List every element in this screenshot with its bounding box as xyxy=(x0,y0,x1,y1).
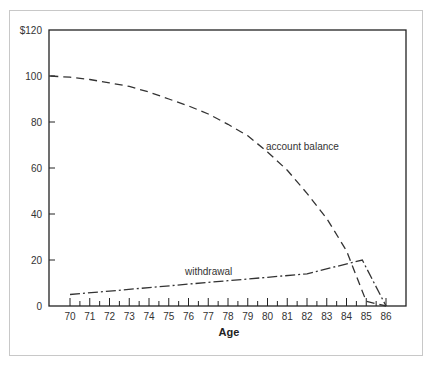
y-tick-label: 60 xyxy=(31,163,43,174)
withdrawal-label: withdrawal xyxy=(184,266,232,277)
x-tick-label: 83 xyxy=(321,311,333,322)
x-tick-label: 73 xyxy=(124,311,136,322)
x-tick-label: 82 xyxy=(301,311,313,322)
x-tick-label: 76 xyxy=(183,311,195,322)
y-axis: 020406080100$120 xyxy=(20,25,55,312)
y-tick-label: 0 xyxy=(36,301,42,312)
x-tick-label: 72 xyxy=(104,311,116,322)
x-tick-label: 77 xyxy=(203,311,215,322)
y-tick-label: 40 xyxy=(31,209,43,220)
x-tick-label: 85 xyxy=(361,311,373,322)
y-tick-label: 80 xyxy=(31,117,43,128)
x-tick-label: 81 xyxy=(282,311,294,322)
x-tick-label: 84 xyxy=(341,311,353,322)
x-tick-label: 75 xyxy=(163,311,175,322)
x-tick-label: 80 xyxy=(262,311,274,322)
x-axis: 7071727374757677787980818283848586 xyxy=(64,298,392,322)
x-tick-label: 86 xyxy=(380,311,392,322)
y-tick-label: $120 xyxy=(20,25,43,36)
plot-area xyxy=(49,30,406,306)
y-tick-label: 100 xyxy=(25,71,42,82)
account-balance-label: account balance xyxy=(266,141,339,152)
line-chart: 020406080100$120 70717273747576777879808… xyxy=(0,0,434,368)
x-axis-title: Age xyxy=(219,326,240,338)
x-tick-label: 74 xyxy=(143,311,155,322)
x-tick-label: 79 xyxy=(242,311,254,322)
y-tick-label: 20 xyxy=(31,255,43,266)
x-tick-label: 71 xyxy=(84,311,96,322)
x-tick-label: 78 xyxy=(222,311,234,322)
x-tick-label: 70 xyxy=(64,311,76,322)
